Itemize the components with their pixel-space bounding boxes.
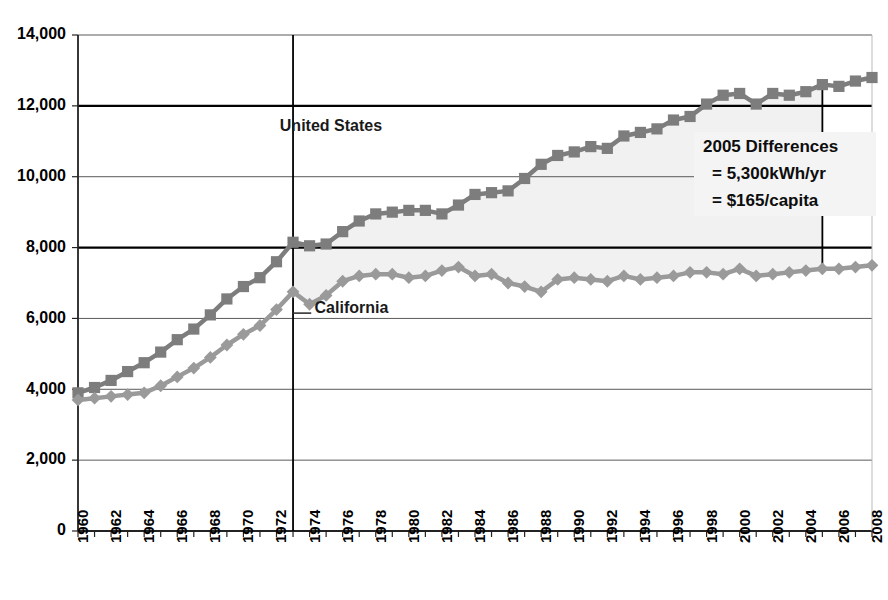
data-point-marker — [585, 141, 596, 152]
data-point-marker — [602, 143, 613, 154]
data-point-marker — [105, 375, 116, 386]
x-tick-label-1990: 1990 — [570, 510, 587, 543]
data-point-marker — [866, 72, 877, 83]
data-point-marker — [89, 382, 100, 393]
data-point-marker — [486, 187, 497, 198]
data-point-marker — [784, 90, 795, 101]
x-tick-label-2002: 2002 — [769, 510, 786, 543]
x-tick-label-1984: 1984 — [471, 509, 488, 543]
california-label: California — [315, 299, 389, 316]
x-tick-label-2000: 2000 — [736, 510, 753, 543]
x-tick-label-1972: 1972 — [272, 510, 289, 543]
x-tick-label-1968: 1968 — [206, 510, 223, 543]
x-tick-label-2006: 2006 — [835, 510, 852, 543]
x-tick-label-1976: 1976 — [339, 510, 356, 543]
y-tick-label-12000: 12,000 — [17, 96, 66, 113]
data-point-marker — [817, 79, 828, 90]
y-tick-label-4000: 4,000 — [26, 380, 66, 397]
data-point-marker — [387, 207, 398, 218]
data-point-marker — [800, 86, 811, 97]
x-tick-label-1970: 1970 — [239, 510, 256, 543]
data-point-marker — [833, 81, 844, 92]
data-point-marker — [651, 123, 662, 134]
data-point-marker — [254, 272, 265, 283]
data-point-marker — [751, 98, 762, 109]
callout-line-3: = $165/capita — [712, 191, 819, 210]
y-tick-label-8000: 8,000 — [26, 238, 66, 255]
data-point-marker — [618, 130, 629, 141]
data-point-marker — [436, 208, 447, 219]
x-tick-label-1994: 1994 — [636, 509, 653, 543]
x-tick-label-1996: 1996 — [669, 510, 686, 543]
y-tick-label-14000: 14,000 — [17, 25, 66, 42]
y-tick-label-0: 0 — [57, 521, 66, 538]
x-tick-label-1966: 1966 — [173, 510, 190, 543]
x-tick-label-1974: 1974 — [306, 509, 323, 543]
data-point-marker — [238, 281, 249, 292]
callout-line-1: 2005 Differences — [703, 137, 838, 156]
difference-callout-box: 2005 Differences = 5,300kWh/yr = $165/ca… — [694, 132, 876, 216]
data-point-marker — [519, 173, 530, 184]
data-point-marker — [668, 114, 679, 125]
data-point-marker — [139, 357, 150, 368]
data-point-marker — [850, 75, 861, 86]
data-point-marker — [552, 150, 563, 161]
y-tick-label-10000: 10,000 — [17, 167, 66, 184]
data-point-marker — [420, 205, 431, 216]
data-point-marker — [684, 111, 695, 122]
data-point-marker — [536, 159, 547, 170]
y-tick-label-6000: 6,000 — [26, 309, 66, 326]
y-tick-label-2000: 2,000 — [26, 450, 66, 467]
data-point-marker — [734, 88, 745, 99]
x-tick-label-1998: 1998 — [703, 510, 720, 543]
united-states-label: United States — [280, 117, 382, 134]
data-point-marker — [502, 185, 513, 196]
data-point-marker — [155, 346, 166, 357]
data-point-marker — [469, 189, 480, 200]
data-point-marker — [701, 98, 712, 109]
x-tick-label-1960: 1960 — [74, 510, 91, 543]
data-point-marker — [370, 208, 381, 219]
callout-line-2: = 5,300kWh/yr — [712, 164, 826, 183]
data-point-marker — [205, 309, 216, 320]
data-point-marker — [403, 205, 414, 216]
per-capita-electricity-chart: 02,0004,0006,0008,00010,00012,00014,000 … — [0, 0, 888, 600]
data-point-marker — [287, 237, 298, 248]
data-point-marker — [304, 240, 315, 251]
x-tick-label-1988: 1988 — [537, 510, 554, 543]
x-tick-label-1978: 1978 — [372, 510, 389, 543]
x-tick-label-1986: 1986 — [504, 510, 521, 543]
data-point-marker — [767, 88, 778, 99]
x-tick-label-2008: 2008 — [868, 510, 885, 543]
data-point-marker — [271, 256, 282, 267]
x-tick-label-1964: 1964 — [140, 509, 157, 543]
data-point-marker — [337, 226, 348, 237]
data-point-marker — [221, 293, 232, 304]
x-tick-label-1992: 1992 — [603, 510, 620, 543]
x-tick-label-1962: 1962 — [107, 510, 124, 543]
data-point-marker — [321, 238, 332, 249]
x-tick-label-2004: 2004 — [802, 509, 819, 543]
x-tick-label-1980: 1980 — [405, 510, 422, 543]
chart-container: 02,0004,0006,0008,00010,00012,00014,000 … — [0, 0, 888, 600]
data-point-marker — [172, 334, 183, 345]
data-point-marker — [718, 90, 729, 101]
x-tick-label-1982: 1982 — [438, 510, 455, 543]
data-point-marker — [569, 146, 580, 157]
data-point-marker — [188, 323, 199, 334]
data-point-marker — [453, 199, 464, 210]
data-point-marker — [354, 215, 365, 226]
data-point-marker — [635, 127, 646, 138]
data-point-marker — [122, 366, 133, 377]
